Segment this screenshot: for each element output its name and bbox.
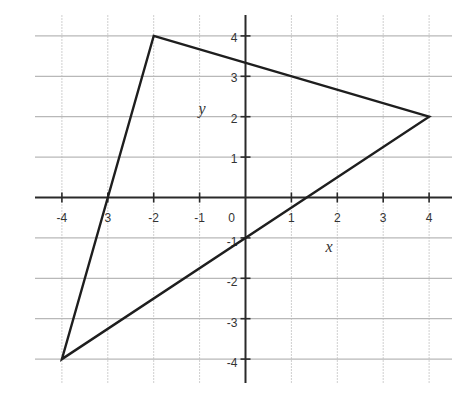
- y-tick-label: -3: [227, 316, 238, 330]
- x-tick-label: 3: [104, 211, 111, 225]
- coordinate-plane: -43-2-101234-4-3-2-11234 x y: [0, 0, 475, 401]
- y-axis-label: y: [196, 100, 206, 118]
- y-tick-label: 2: [231, 112, 238, 126]
- y-tick-label: -4: [227, 356, 238, 370]
- x-tick-label: 1: [288, 211, 295, 225]
- x-tick-label: 0: [228, 211, 235, 225]
- x-tick-label: 4: [426, 211, 433, 225]
- x-tick-label: 3: [380, 211, 387, 225]
- x-tick-label: -2: [148, 211, 159, 225]
- y-tick-label: 4: [231, 31, 238, 45]
- x-tick-label: 2: [334, 211, 341, 225]
- y-tick-label: -2: [227, 275, 238, 289]
- x-tick-label: -4: [57, 211, 68, 225]
- grid: [35, 15, 452, 383]
- x-tick-label: -1: [194, 211, 205, 225]
- y-tick-label: 3: [231, 71, 238, 85]
- y-tick-label: 1: [231, 152, 238, 166]
- axes: [35, 15, 452, 383]
- x-axis-label: x: [324, 238, 332, 255]
